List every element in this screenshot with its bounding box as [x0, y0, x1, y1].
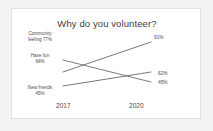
- right-value-have-fun: 45%: [158, 80, 168, 86]
- slide-card: Why do you volunteer? Community feeling …: [11, 8, 201, 119]
- axis-label-year-end: 2020: [129, 102, 144, 109]
- series-line-community-feeling: [63, 42, 151, 72]
- left-label-new-friends-line2: 45%: [15, 91, 65, 97]
- screenshot-canvas: Why do you volunteer? Community feeling …: [0, 0, 213, 131]
- right-value-community-feeling: 91%: [154, 35, 164, 41]
- left-label-new-friends: New friends 45%: [15, 85, 65, 96]
- right-value-new-friends: 62%: [158, 71, 168, 77]
- left-label-community-feeling: Community feeling 77%: [15, 31, 65, 42]
- left-label-have-fun-line2: 64%: [15, 59, 65, 65]
- axis-label-year-start: 2017: [56, 102, 71, 109]
- left-label-have-fun: Have fun 64%: [15, 53, 65, 64]
- left-label-community-feeling-line2: feeling 77%: [15, 37, 65, 43]
- slope-chart-plot: [12, 9, 202, 120]
